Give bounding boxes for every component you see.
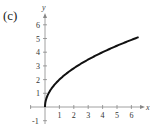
y-tick-label: 6 [36, 21, 40, 30]
x-tick-label: 5 [115, 111, 119, 120]
x-tick-label: 1 [57, 111, 61, 120]
y-tick-label: 5 [36, 35, 40, 44]
x-tick-label: 6 [129, 111, 133, 120]
y-tick-label: 3 [36, 62, 40, 71]
x-tick-label: 2 [72, 111, 76, 120]
chart: x y 123456 -1123456 [0, 0, 150, 126]
x-axis-label: x [145, 103, 150, 112]
x-axis-arrow-icon [140, 105, 145, 109]
x-tick-label: 3 [86, 111, 90, 120]
y-axis-arrow-icon [43, 13, 47, 18]
x-tick-label: 4 [101, 111, 105, 120]
y-tick-label: 1 [36, 89, 40, 98]
y-tick-label: 4 [36, 48, 40, 57]
curve-sqrt [45, 37, 139, 107]
y-axis-label: y [41, 3, 46, 12]
y-tick-label: 2 [36, 76, 40, 85]
y-tick-label: -1 [32, 117, 39, 126]
